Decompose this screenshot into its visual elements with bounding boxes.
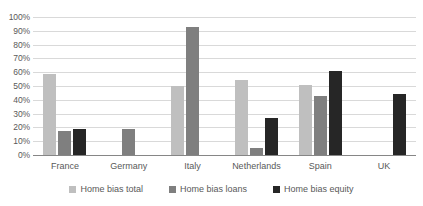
y-axis-tick-label: 90% (13, 27, 30, 36)
bar-france-total (43, 74, 56, 155)
bar-chart: 0%10%20%30%40%50%60%70%80%90%100% France… (0, 0, 423, 206)
bar-group (161, 17, 225, 155)
y-axis-tick-label: 100% (9, 13, 30, 22)
bar-italy-total (171, 86, 184, 155)
bar-netherlands-equity (265, 118, 278, 155)
bar-netherlands-loans (250, 148, 263, 155)
legend-swatch-total-icon (69, 186, 76, 193)
y-axis-tick-label: 10% (13, 137, 30, 146)
x-axis-label-uk: UK (352, 157, 416, 175)
bar-netherlands-total (235, 80, 248, 155)
x-axis-label-italy: Italy (161, 157, 225, 175)
bar-group (352, 17, 416, 155)
x-axis-label-spain: Spain (288, 157, 352, 175)
x-axis-label-france: France (33, 157, 97, 175)
legend-label: Home bias loans (180, 185, 247, 194)
bar-group (224, 17, 288, 155)
legend-swatch-equity-icon (273, 186, 280, 193)
y-axis-tick-label: 0% (18, 151, 30, 160)
legend-label: Home bias total (80, 185, 143, 194)
y-axis-tick-label: 70% (13, 54, 30, 63)
legend-item-loans[interactable]: Home bias loans (169, 185, 247, 194)
y-axis-tick-label: 80% (13, 40, 30, 49)
legend-swatch-loans-icon (169, 186, 176, 193)
bar-france-equity (73, 129, 86, 155)
plot-area (33, 17, 416, 156)
bar-italy-loans (186, 27, 199, 155)
legend-item-equity[interactable]: Home bias equity (273, 185, 354, 194)
y-axis-tick-label: 60% (13, 68, 30, 77)
x-axis-label-germany: Germany (97, 157, 161, 175)
bars-layer (33, 17, 416, 155)
bar-group (33, 17, 97, 155)
y-axis-tick-label: 40% (13, 96, 30, 105)
y-axis: 0%10%20%30%40%50%60%70%80%90%100% (0, 0, 33, 172)
x-axis-label-netherlands: Netherlands (224, 157, 288, 175)
plot-wrapper: 0%10%20%30%40%50%60%70%80%90%100% France… (0, 0, 423, 172)
legend-label: Home bias equity (284, 185, 354, 194)
legend-item-total[interactable]: Home bias total (69, 185, 143, 194)
bar-germany-loans (122, 129, 135, 155)
y-axis-tick-label: 20% (13, 123, 30, 132)
bar-france-loans (58, 131, 71, 155)
chart-legend: Home bias totalHome bias loansHome bias … (0, 181, 423, 197)
y-axis-tick-label: 50% (13, 82, 30, 91)
bar-group (97, 17, 161, 155)
bar-spain-loans (314, 96, 327, 155)
y-axis-tick-label: 30% (13, 109, 30, 118)
bar-spain-equity (329, 71, 342, 155)
bar-uk-equity (393, 94, 406, 155)
x-axis: FranceGermanyItalyNetherlandsSpainUK (33, 157, 416, 175)
bar-spain-total (299, 85, 312, 155)
bar-group (288, 17, 352, 155)
